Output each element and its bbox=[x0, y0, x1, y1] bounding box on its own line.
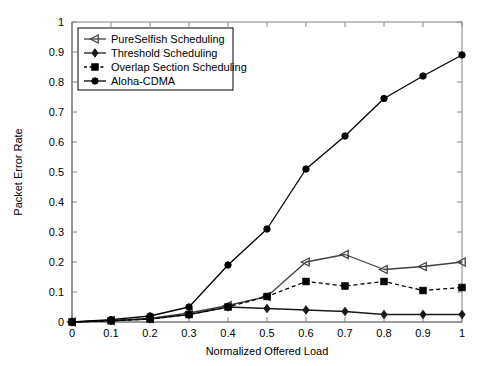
data-point-circle bbox=[108, 316, 114, 322]
data-point-circle bbox=[342, 133, 348, 139]
data-point-circle bbox=[186, 304, 192, 310]
data-point-square bbox=[381, 278, 387, 284]
packet-error-rate-line-chart: 00.10.20.30.40.50.60.70.80.9100.10.20.30… bbox=[0, 0, 502, 366]
y-tick-label: 0.9 bbox=[49, 46, 64, 58]
data-point-diamond bbox=[303, 306, 309, 314]
y-tick-label: 0.5 bbox=[49, 166, 64, 178]
x-tick-label: 0.6 bbox=[298, 327, 313, 339]
x-tick-label: 0 bbox=[69, 327, 75, 339]
data-point-square bbox=[420, 287, 426, 293]
data-point-circle bbox=[225, 262, 231, 268]
y-tick-label: 0 bbox=[58, 316, 64, 328]
y-tick-label: 0.1 bbox=[49, 286, 64, 298]
x-tick-label: 0.9 bbox=[415, 327, 430, 339]
data-point-diamond bbox=[459, 310, 465, 318]
data-point-square bbox=[459, 284, 465, 290]
x-tick-label: 0.4 bbox=[220, 327, 235, 339]
x-tick-label: 0.8 bbox=[376, 327, 391, 339]
data-point-circle bbox=[92, 78, 98, 84]
series-line-2 bbox=[72, 282, 462, 323]
legend-label-2: Overlap Section Scheduling bbox=[111, 61, 247, 73]
data-point-circle bbox=[420, 73, 426, 79]
data-point-square bbox=[264, 293, 270, 299]
legend-label-3: Aloha-CDMA bbox=[111, 75, 176, 87]
data-point-circle bbox=[381, 95, 387, 101]
data-point-square bbox=[303, 278, 309, 284]
x-tick-label: 0.5 bbox=[259, 327, 274, 339]
y-axis-title: Packet Error Rate bbox=[12, 128, 24, 215]
data-point-square bbox=[92, 64, 98, 70]
data-point-diamond bbox=[264, 304, 270, 312]
data-point-circle bbox=[69, 319, 75, 325]
x-tick-label: 0.7 bbox=[337, 327, 352, 339]
y-tick-label: 0.8 bbox=[49, 76, 64, 88]
legend-label-1: Threshold Scheduling bbox=[111, 47, 217, 59]
data-point-square bbox=[186, 311, 192, 317]
data-point-square bbox=[342, 283, 348, 289]
x-tick-label: 0.3 bbox=[181, 327, 196, 339]
data-point-diamond bbox=[420, 310, 426, 318]
y-tick-label: 1 bbox=[58, 16, 64, 28]
series-line-3 bbox=[72, 55, 462, 322]
legend-label-0: PureSelfish Scheduling bbox=[111, 33, 225, 45]
chart-figure: 00.10.20.30.40.50.60.70.80.9100.10.20.30… bbox=[0, 0, 502, 366]
data-point-circle bbox=[303, 166, 309, 172]
y-tick-label: 0.4 bbox=[49, 196, 64, 208]
x-axis-title: Normalized Offered Load bbox=[206, 345, 329, 357]
y-tick-label: 0.3 bbox=[49, 226, 64, 238]
data-point-circle bbox=[264, 226, 270, 232]
data-point-square bbox=[225, 304, 231, 310]
y-tick-label: 0.7 bbox=[49, 106, 64, 118]
y-tick-label: 0.2 bbox=[49, 256, 64, 268]
data-point-circle bbox=[459, 52, 465, 58]
data-point-diamond bbox=[342, 307, 348, 315]
x-tick-label: 1 bbox=[459, 327, 465, 339]
y-tick-label: 0.6 bbox=[49, 136, 64, 148]
x-tick-label: 0.1 bbox=[103, 327, 118, 339]
x-tick-label: 0.2 bbox=[142, 327, 157, 339]
data-point-circle bbox=[147, 313, 153, 319]
data-point-diamond bbox=[381, 310, 387, 318]
